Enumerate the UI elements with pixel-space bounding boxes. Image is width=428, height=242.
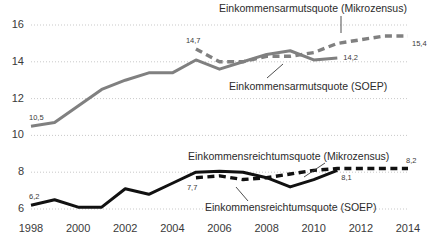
x-axis-tick-label: 2014 xyxy=(388,222,428,234)
data-point-label: 6,2 xyxy=(29,192,39,201)
x-axis-tick-label: 2012 xyxy=(341,222,381,234)
data-point-label: 10,5 xyxy=(29,113,44,122)
x-axis-tick-label: 2010 xyxy=(294,222,334,234)
x-axis-tick-label: 1998 xyxy=(11,222,51,234)
x-axis-tick-label: 2002 xyxy=(105,222,145,234)
y-axis-tick-label: 12 xyxy=(2,92,24,104)
series-label-wealth-soep: Einkommensreichtumsquote (SOEP) xyxy=(205,201,377,213)
data-point-label: 7,7 xyxy=(187,183,197,192)
y-axis-tick-label: 16 xyxy=(2,18,24,30)
data-point-label: 8,1 xyxy=(341,173,351,182)
series-line-1 xyxy=(196,36,408,62)
leader-line-1 xyxy=(267,64,283,78)
series-label-poverty-mikrozensus: Einkommensarmutsquote (Mikrozensus) xyxy=(219,2,407,14)
x-axis-tick-label: 2000 xyxy=(58,222,98,234)
leader-line-3 xyxy=(236,187,248,201)
data-point-label: 15,4 xyxy=(412,39,427,48)
x-axis-tick-label: 2004 xyxy=(152,222,192,234)
y-axis-tick-label: 14 xyxy=(2,55,24,67)
data-point-label: 8,2 xyxy=(406,156,416,165)
series-label-wealth-mikrozensus: Einkommensreichtumsquote (Mikrozensus) xyxy=(188,150,389,162)
data-point-label: 14,2 xyxy=(343,53,358,62)
y-axis-tick-label: 6 xyxy=(2,202,24,214)
data-point-label: 14,7 xyxy=(186,36,201,45)
x-axis-tick-label: 2008 xyxy=(247,222,287,234)
y-axis-tick-label: 10 xyxy=(2,128,24,140)
series-label-poverty-soep: Einkommensarmutsquote (SOEP) xyxy=(229,80,387,92)
x-axis-tick-label: 2006 xyxy=(200,222,240,234)
y-axis-tick-label: 8 xyxy=(2,165,24,177)
